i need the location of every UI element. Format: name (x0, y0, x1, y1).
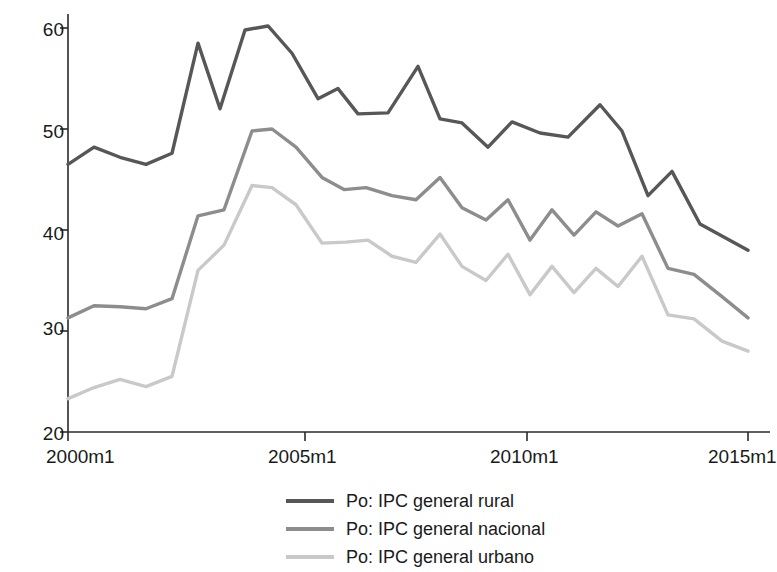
legend-swatch-nacional (286, 527, 334, 531)
legend-label-urbano: Po: IPC general urbano (346, 547, 534, 568)
legend-item-rural: Po: IPC general rural (286, 487, 706, 515)
y-tick-label-20: 20 (28, 424, 64, 443)
legend-label-rural: Po: IPC general rural (346, 491, 514, 512)
x-tick-label-2010m1: 2010m1 (490, 447, 559, 466)
line-chart: Por ciento 60 50 40 30 20 2000m1 2005m1 … (0, 0, 777, 572)
x-tick-label-2005m1: 2005m1 (268, 447, 337, 466)
series-line-rural (68, 26, 748, 250)
x-tick-label-2000m1: 2000m1 (46, 447, 115, 466)
legend-item-nacional: Po: IPC general nacional (286, 515, 706, 543)
legend-label-nacional: Po: IPC general nacional (346, 519, 545, 540)
y-tick-label-60: 60 (28, 20, 64, 39)
x-axis-ticks (68, 432, 748, 441)
legend-swatch-rural (286, 499, 334, 503)
series-lines (68, 26, 748, 399)
series-line-nacional (68, 129, 748, 318)
y-tick-label-30: 30 (28, 319, 64, 338)
legend-item-urbano: Po: IPC general urbano (286, 543, 706, 571)
y-tick-label-50: 50 (28, 122, 64, 141)
chart-legend: Po: IPC general rural Po: IPC general na… (286, 487, 706, 571)
y-tick-label-40: 40 (28, 224, 64, 243)
series-line-urbano (68, 186, 748, 399)
legend-swatch-urbano (286, 555, 334, 559)
x-tick-label-2015m1: 2015m1 (708, 447, 777, 466)
